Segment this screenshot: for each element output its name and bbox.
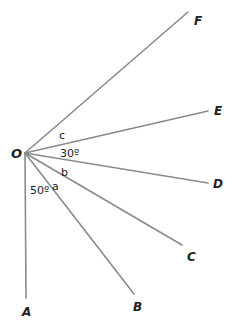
point-labels: ABCDEF [21, 14, 223, 319]
angle-label-2: b [61, 166, 68, 179]
point-label-f: F [194, 14, 203, 28]
ray-oa [25, 153, 26, 298]
point-label-e: E [214, 104, 223, 118]
point-label-a: A [21, 305, 31, 319]
ray-ob [25, 153, 134, 294]
angle-labels: c30ºba50º [30, 129, 79, 197]
ray-od [25, 153, 208, 183]
angle-label-0: c [59, 129, 65, 142]
angle-label-3: a [52, 180, 59, 193]
point-label-c: C [187, 250, 196, 264]
rays [25, 12, 208, 298]
point-label-b: B [133, 300, 142, 314]
angles-diagram: ABCDEF O c30ºba50º [0, 0, 236, 328]
ray-of [25, 12, 188, 153]
origin-label-o: O [11, 146, 22, 161]
ray-oc [25, 153, 182, 245]
ray-oe [25, 111, 208, 153]
angle-label-1: 30º [60, 147, 79, 160]
angle-label-4: 50º [30, 184, 49, 197]
point-label-d: D [213, 177, 223, 191]
